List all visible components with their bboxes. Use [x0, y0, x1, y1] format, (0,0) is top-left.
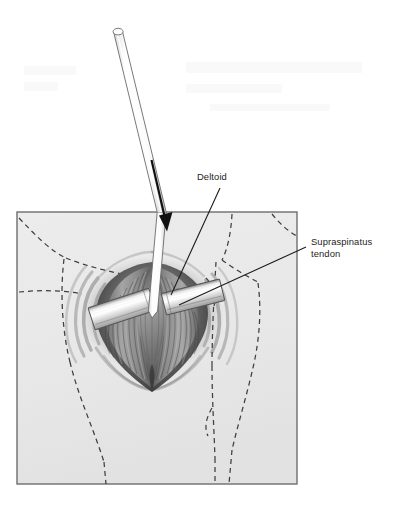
label-supraspinatus-line2: tendon — [311, 248, 340, 259]
label-deltoid-text: Deltoid — [197, 171, 227, 182]
scan-bleed-artifact — [24, 62, 362, 111]
label-deltoid: Deltoid — [197, 171, 227, 182]
surgical-illustration-figure: Deltoid Supraspinatus tendon — [0, 0, 403, 511]
label-supraspinatus-line1: Supraspinatus — [311, 236, 372, 247]
illustration-canvas: Deltoid Supraspinatus tendon — [0, 0, 403, 511]
cannula-lumen-opening — [113, 28, 123, 35]
label-supraspinatus-tendon: Supraspinatus tendon — [311, 236, 372, 259]
